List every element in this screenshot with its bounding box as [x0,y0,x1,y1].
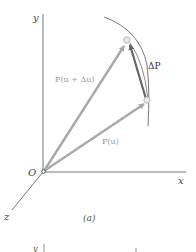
p-u-label: P(u) [102,137,119,146]
delta-p-label: ΔP [148,61,161,71]
y-axis-label: y [32,12,39,23]
x-axis-label: x [178,175,184,186]
figure-b-y-label: y [32,244,38,252]
vector-p-u-plus-du [44,46,124,171]
space-curve [104,17,149,126]
origin-label: O [28,167,36,178]
point-p-u-du [124,37,130,43]
origin-point [42,170,46,174]
point-p-u [144,97,150,103]
figure-a-caption: (a) [83,213,96,223]
vector-p-u [44,104,144,171]
p-u-du-label: P(u + Δu) [55,75,95,84]
z-axis-label: z [3,211,10,222]
parametric-curve-diagram: y x z O P(u + Δu) P(u) ΔP (a) y [0,0,196,252]
